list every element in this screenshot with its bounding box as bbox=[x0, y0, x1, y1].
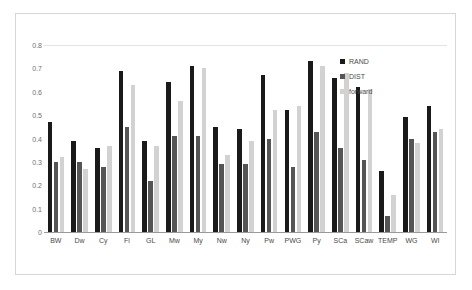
bar-DIST-PWG bbox=[291, 167, 296, 232]
y-axis-tick-0: 0 bbox=[16, 229, 42, 236]
bar-RAND-Ny bbox=[237, 129, 242, 232]
y-axis-tick-0.7: 0.7 bbox=[16, 65, 42, 72]
bar-DIST-WG bbox=[409, 139, 414, 233]
bar-RAND-BW bbox=[48, 122, 53, 232]
bar-DIST-My bbox=[196, 136, 201, 232]
bar-RAND-SCa bbox=[332, 78, 337, 232]
bar-forward-Py bbox=[320, 66, 325, 232]
bar-DIST-Nw bbox=[219, 164, 224, 232]
bar-group-Dw bbox=[68, 45, 92, 232]
bar-DIST-Mw bbox=[172, 136, 177, 232]
bar-RAND-Nw bbox=[213, 127, 218, 232]
y-axis-tick-0.1: 0.1 bbox=[16, 205, 42, 212]
y-axis-tick-0.6: 0.6 bbox=[16, 88, 42, 95]
bar-DIST-Py bbox=[314, 132, 319, 233]
bar-DIST-BW bbox=[54, 162, 59, 232]
y-axis-tick-0.4: 0.4 bbox=[16, 135, 42, 142]
bar-group-Ny bbox=[234, 45, 258, 232]
legend-label-RAND: RAND bbox=[349, 58, 369, 65]
bar-DIST-Pw bbox=[267, 139, 272, 233]
x-axis-tick-Wl: Wl bbox=[419, 235, 451, 247]
legend-label-DIST: DIST bbox=[349, 73, 365, 80]
bar-group-GL bbox=[139, 45, 163, 232]
legend-label-forward: forward bbox=[349, 88, 372, 95]
bar-RAND-Fl bbox=[119, 71, 124, 232]
bar-DIST-Ny bbox=[243, 164, 248, 232]
y-axis-tick-labels: 00.10.20.30.40.50.60.70.8 bbox=[12, 0, 42, 290]
bar-RAND-Wl bbox=[427, 106, 432, 232]
bar-DIST-SCa bbox=[338, 148, 343, 232]
y-axis-tick-0.5: 0.5 bbox=[16, 112, 42, 119]
legend-swatch-icon-forward bbox=[340, 89, 345, 94]
chart-legend: RANDDISTforward bbox=[340, 54, 410, 99]
bar-RAND-PWG bbox=[285, 110, 290, 232]
legend-item-DIST[interactable]: DIST bbox=[340, 69, 410, 84]
bar-DIST-SCaw bbox=[362, 160, 367, 232]
bar-DIST-GL bbox=[148, 181, 153, 232]
bar-RAND-Py bbox=[308, 61, 313, 232]
y-axis-tick-0.2: 0.2 bbox=[16, 182, 42, 189]
bar-forward-Ny bbox=[249, 141, 254, 232]
bar-group-Nw bbox=[210, 45, 234, 232]
bar-forward-WG bbox=[415, 143, 420, 232]
bar-DIST-TEMP bbox=[385, 216, 390, 232]
legend-item-RAND[interactable]: RAND bbox=[340, 54, 410, 69]
legend-swatch-icon-DIST bbox=[340, 74, 345, 79]
bar-group-My bbox=[186, 45, 210, 232]
bar-group-BW bbox=[44, 45, 68, 232]
legend-item-forward[interactable]: forward bbox=[340, 84, 410, 99]
bar-forward-My bbox=[202, 68, 207, 232]
bar-RAND-Pw bbox=[261, 75, 266, 232]
bar-RAND-TEMP bbox=[379, 171, 384, 232]
y-axis-tick-0.8: 0.8 bbox=[16, 42, 42, 49]
bar-DIST-Fl bbox=[125, 127, 130, 232]
bar-group-PWG bbox=[281, 45, 305, 232]
bar-forward-Mw bbox=[178, 101, 183, 232]
bar-forward-Cy bbox=[107, 146, 112, 232]
bar-forward-PWG bbox=[297, 106, 302, 232]
bar-forward-Fl bbox=[131, 85, 136, 232]
bar-group-Cy bbox=[91, 45, 115, 232]
bar-DIST-Wl bbox=[433, 132, 438, 233]
bar-DIST-Dw bbox=[77, 162, 82, 232]
bar-RAND-Dw bbox=[71, 141, 76, 232]
bar-forward-SCaw bbox=[368, 89, 373, 232]
bar-RAND-GL bbox=[142, 141, 147, 232]
bar-forward-BW bbox=[60, 157, 65, 232]
bar-group-Py bbox=[305, 45, 329, 232]
bar-forward-Nw bbox=[225, 155, 230, 232]
bar-RAND-WG bbox=[403, 117, 408, 232]
x-axis-baseline bbox=[44, 232, 447, 233]
y-axis-tick-0.3: 0.3 bbox=[16, 158, 42, 165]
bar-RAND-SCaw bbox=[356, 87, 361, 232]
bar-forward-TEMP bbox=[391, 195, 396, 232]
bar-group-Mw bbox=[163, 45, 187, 232]
bar-group-Pw bbox=[257, 45, 281, 232]
bar-group-Fl bbox=[115, 45, 139, 232]
bar-DIST-Cy bbox=[101, 167, 106, 232]
bar-forward-GL bbox=[154, 146, 159, 232]
bar-forward-Dw bbox=[83, 169, 88, 232]
bar-forward-Wl bbox=[439, 129, 444, 232]
x-axis-category-labels: BWDwCyFlGLMwMyNwNyPwPWGPySCaSCawTEMPWGWl bbox=[44, 235, 447, 251]
bar-RAND-My bbox=[190, 66, 195, 232]
bar-RAND-Cy bbox=[95, 148, 100, 232]
legend-swatch-icon-RAND bbox=[340, 59, 345, 64]
bar-RAND-Mw bbox=[166, 82, 171, 232]
bar-forward-Pw bbox=[273, 110, 278, 232]
bar-group-Wl bbox=[423, 45, 447, 232]
bar-chart-figure: 00.10.20.30.40.50.60.70.8 BWDwCyFlGLMwMy… bbox=[0, 0, 472, 290]
